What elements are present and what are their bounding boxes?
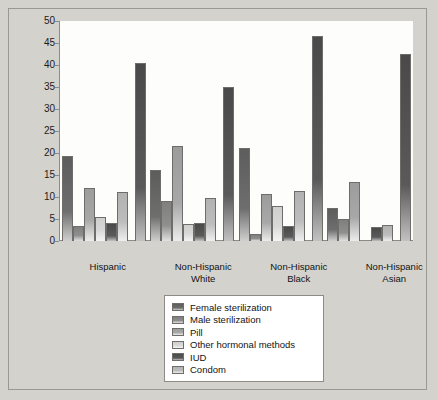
y-axis-tick-label: 10 <box>21 192 55 202</box>
bar <box>106 223 117 241</box>
y-axis-tick-label: 35 <box>21 82 55 92</box>
legend-swatch-icon <box>172 328 184 336</box>
y-axis-tick-label: 50 <box>21 16 55 26</box>
y-axis-tick-label: 30 <box>21 104 55 114</box>
legend-item: Condom <box>172 364 317 377</box>
y-axis-tick-mark <box>55 131 59 132</box>
bar <box>349 182 360 241</box>
bar <box>161 201 172 241</box>
y-axis-tick-label: 20 <box>21 148 55 158</box>
legend-item: Female sterilization <box>172 301 317 314</box>
y-axis-tick-mark <box>55 21 59 22</box>
bar <box>84 188 95 241</box>
bar-group <box>237 21 325 241</box>
y-axis-tick-mark <box>55 87 59 88</box>
bar <box>371 227 382 241</box>
y-axis-tick-label: 45 <box>21 38 55 48</box>
bar <box>327 208 338 241</box>
bar <box>172 146 183 241</box>
bar-series-container <box>60 21 413 241</box>
x-axis-category-label: Hispanic <box>60 261 156 284</box>
legend-item: Male sterilization <box>172 314 317 327</box>
bar <box>183 224 194 241</box>
chart-canvas: 05101520253035404550 HispanicNon-Hispani… <box>0 0 437 400</box>
bar <box>294 191 305 241</box>
bar <box>400 54 411 241</box>
legend-item-label: Condom <box>190 364 226 375</box>
bar <box>382 225 393 241</box>
bar <box>312 36 323 241</box>
bar <box>272 206 283 241</box>
legend-item-label: Female sterilization <box>190 302 272 313</box>
bar <box>205 198 216 241</box>
bar <box>223 87 234 241</box>
y-axis-tick-label: 25 <box>21 126 55 136</box>
y-axis-tick-label: 0 <box>21 236 55 246</box>
legend-item-label: Other hormonal methods <box>190 339 295 350</box>
legend-swatch-icon <box>172 353 184 361</box>
y-axis-tick-mark <box>55 219 59 220</box>
legend-item: Pill <box>172 326 317 339</box>
legend-swatch-icon <box>172 303 184 311</box>
x-axis-category-label: Non-HispanicWhite <box>156 261 252 284</box>
bar <box>239 148 250 241</box>
y-axis-tick-mark <box>55 109 59 110</box>
bar <box>338 219 349 241</box>
bar <box>135 63 146 241</box>
y-axis-tick-mark <box>55 43 59 44</box>
bar <box>283 226 294 241</box>
legend-item: IUD <box>172 351 317 364</box>
legend-swatch-icon <box>172 341 184 349</box>
legend-item-label: Male sterilization <box>190 314 261 325</box>
legend-item: Other hormonal methods <box>172 339 317 352</box>
legend-swatch-icon <box>172 366 184 374</box>
bar-gap <box>305 240 312 241</box>
bar <box>117 192 128 241</box>
bar <box>194 223 205 241</box>
legend-swatch-icon <box>172 316 184 324</box>
y-axis-tick-label: 15 <box>21 170 55 180</box>
chart-plate: 05101520253035404550 HispanicNon-Hispani… <box>8 8 427 390</box>
x-axis-labels: HispanicNon-HispanicWhiteNon-HispanicBla… <box>60 261 437 284</box>
bar <box>73 226 84 241</box>
bar <box>150 170 161 241</box>
y-axis-tick-mark <box>55 175 59 176</box>
x-axis-category-label: Non-HispanicBlack <box>251 261 347 284</box>
bar <box>95 217 106 241</box>
y-axis-tick-label: 40 <box>21 60 55 70</box>
chart-legend: Female sterilizationMale sterilizationPi… <box>164 295 324 382</box>
y-axis-tick-mark <box>55 197 59 198</box>
bar <box>250 234 261 241</box>
bar-gap <box>216 240 223 241</box>
y-axis-tick-label: 5 <box>21 214 55 224</box>
y-axis-tick-mark <box>55 241 59 242</box>
plot-area: 05101520253035404550 <box>21 21 415 257</box>
y-axis-tick-mark <box>55 65 59 66</box>
bar-gap <box>128 240 135 241</box>
bar <box>62 156 73 241</box>
legend-item-label: IUD <box>190 352 206 363</box>
y-axis-tick-mark <box>55 153 59 154</box>
bar <box>261 194 272 241</box>
bar-group <box>148 21 236 241</box>
bar-group <box>325 21 413 241</box>
legend-item-label: Pill <box>190 327 203 338</box>
bar-gap <box>393 240 400 241</box>
x-axis-category-label: Non-HispanicAsian <box>347 261 437 284</box>
bar-group <box>60 21 148 241</box>
